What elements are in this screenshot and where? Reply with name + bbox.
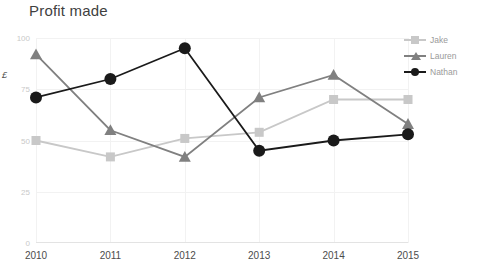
chart-title: Profit made [29, 2, 108, 19]
data-point-marker [404, 95, 413, 104]
data-point-marker [402, 118, 414, 129]
chart-container: Profit made £ 0255075100 201020112012201… [0, 0, 489, 269]
legend-marker-circle-icon [411, 68, 419, 76]
legend-item-lauren[interactable]: Lauren [404, 49, 488, 62]
x-axis-tick-label: 2010 [25, 250, 47, 261]
data-point-marker [328, 135, 340, 147]
x-axis-tick-label: 2013 [248, 250, 270, 261]
legend-label: Jake [430, 35, 448, 45]
data-point-marker [329, 95, 338, 104]
data-point-marker [255, 128, 264, 137]
y-axis-tick-label: 100 [17, 34, 30, 43]
legend-item-jake[interactable]: Jake [404, 33, 488, 46]
data-point-marker [104, 73, 116, 85]
legend-marker-square-icon [411, 36, 419, 44]
x-axis-tick-label: 2011 [100, 250, 122, 261]
chart-legend: JakeLaurenNathan [404, 33, 488, 81]
y-axis-tick-label: 0 [26, 239, 30, 248]
y-axis-tick-label: 75 [21, 85, 30, 94]
data-point-marker [106, 152, 115, 161]
data-point-marker [30, 91, 42, 103]
series-layer [36, 38, 408, 243]
legend-swatch [404, 66, 426, 77]
legend-label: Lauren [430, 51, 456, 61]
data-point-marker [328, 69, 340, 80]
series-line [36, 54, 408, 156]
plot-area: 0255075100 201020112012201320142015 [36, 38, 408, 243]
legend-swatch [404, 34, 426, 45]
data-point-marker [32, 136, 41, 145]
data-point-marker [402, 128, 414, 140]
legend-label: Nathan [430, 67, 457, 77]
series-lauren [30, 48, 414, 161]
data-point-marker [30, 48, 42, 59]
x-axis-tick-label: 2014 [322, 250, 344, 261]
legend-item-nathan[interactable]: Nathan [404, 65, 488, 78]
data-point-marker [180, 134, 189, 143]
y-axis-tick-label: 25 [21, 187, 30, 196]
y-axis-unit-label: £ [2, 70, 7, 80]
legend-swatch [404, 50, 426, 61]
y-axis-tick-label: 50 [21, 136, 30, 145]
x-axis-tick-label: 2012 [174, 250, 196, 261]
legend-marker-triangle-icon [411, 52, 421, 60]
data-point-marker [179, 42, 191, 54]
x-axis-tick-label: 2015 [397, 250, 419, 261]
data-point-marker [253, 145, 265, 157]
